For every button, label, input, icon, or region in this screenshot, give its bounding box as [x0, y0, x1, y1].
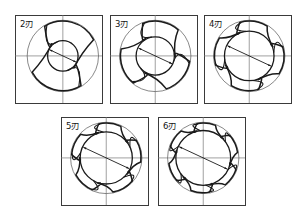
flute-cross-section-figure: 2刃3刃4刃5刃6刃	[0, 0, 305, 217]
panel-label-2-flute: 2刃	[20, 19, 34, 29]
panel-3-flute: 3刃	[110, 15, 198, 104]
panel-5-flute: 5刃	[61, 117, 149, 206]
panel-label-6-flute: 6刃	[163, 121, 177, 131]
panel-label-5-flute: 5刃	[66, 121, 80, 131]
panel-4-flute: 4刃	[204, 15, 292, 104]
panel-label-4-flute: 4刃	[209, 19, 223, 29]
panel-2-flute: 2刃	[15, 15, 103, 104]
panel-6-flute: 6刃	[158, 117, 246, 206]
panel-label-3-flute: 3刃	[115, 19, 129, 29]
